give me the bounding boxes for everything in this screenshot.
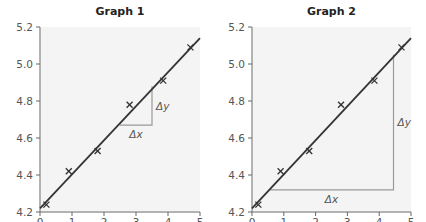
graph-2: Graph 24.24.44.64.85.05.2012345ΔxΔy xyxy=(228,5,414,222)
x-tick-label: 0 xyxy=(37,216,44,222)
x-tick-label: 5 xyxy=(197,216,204,222)
y-tick-label: 5.2 xyxy=(16,21,33,33)
y-tick-label: 5.0 xyxy=(16,58,33,70)
delta-y-label: Δy xyxy=(155,100,170,112)
y-tick-label: 4.4 xyxy=(228,169,245,181)
x-tick-label: 3 xyxy=(344,216,351,222)
x-tick-label: 5 xyxy=(408,216,415,222)
delta-y-label: Δy xyxy=(397,116,412,128)
delta-x-label: Δx xyxy=(128,128,143,140)
x-tick-label: 1 xyxy=(280,216,287,222)
y-tick-label: 4.8 xyxy=(16,95,33,107)
plot-area xyxy=(253,27,411,211)
y-tick-label: 4.6 xyxy=(228,132,245,144)
y-tick-label: 5.2 xyxy=(228,21,245,33)
x-tick-label: 2 xyxy=(312,216,319,222)
y-tick-label: 4.2 xyxy=(228,206,245,218)
y-tick-label: 4.8 xyxy=(228,95,245,107)
y-tick-label: 5.0 xyxy=(228,58,245,70)
delta-x-label: Δx xyxy=(324,193,339,205)
x-tick-label: 3 xyxy=(133,216,140,222)
x-tick-label: 2 xyxy=(101,216,108,222)
x-tick-label: 4 xyxy=(376,216,383,222)
x-tick-label: 4 xyxy=(165,216,172,222)
y-tick-label: 4.2 xyxy=(16,206,33,218)
graph-title: Graph 2 xyxy=(307,5,356,18)
x-tick-label: 1 xyxy=(69,216,76,222)
plot-area xyxy=(41,27,200,211)
graph-title: Graph 1 xyxy=(95,5,144,18)
chart-canvas: Graph 14.24.44.64.85.05.2012345ΔxΔyGraph… xyxy=(0,0,426,222)
graph-1: Graph 14.24.44.64.85.05.2012345ΔxΔy xyxy=(16,5,203,222)
y-tick-label: 4.4 xyxy=(16,169,33,181)
y-tick-label: 4.6 xyxy=(16,132,33,144)
x-tick-label: 0 xyxy=(249,216,256,222)
